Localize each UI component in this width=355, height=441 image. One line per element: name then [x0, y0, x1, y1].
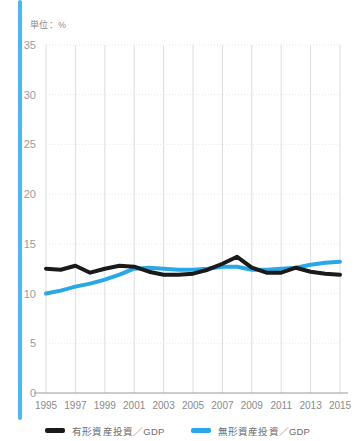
grid-lines: [46, 45, 340, 393]
x-tick-label: 1995: [35, 400, 58, 411]
x-tick-label: 1997: [64, 400, 87, 411]
y-tick-label: 25: [24, 138, 36, 150]
x-tick-label: 2003: [152, 400, 175, 411]
y-tick-label: 20: [24, 188, 36, 200]
chart-legend: 有形資産投資／GDP 無形資産投資／GDP: [0, 420, 355, 441]
y-axis-tick-labels: 05101520253035: [24, 39, 36, 399]
y-tick-label: 15: [24, 238, 36, 250]
chart-plot-area: 05101520253035 1995199719992001200320052…: [0, 0, 355, 441]
x-tick-label: 1999: [94, 400, 117, 411]
x-tick-label: 2009: [241, 400, 264, 411]
line-chart-svg: 05101520253035 1995199719992001200320052…: [0, 0, 355, 441]
legend-swatch-intangible: [191, 428, 211, 433]
legend-label-tangible: 有形資産投資／GDP: [72, 424, 165, 438]
y-tick-label: 35: [24, 39, 36, 51]
x-tick-label: 2007: [211, 400, 234, 411]
legend-item-tangible: 有形資産投資／GDP: [45, 424, 165, 438]
x-axis-tick-labels: 1995199719992001200320052007200920112013…: [35, 400, 352, 411]
x-tick-label: 2013: [299, 400, 322, 411]
x-tick-label: 2005: [182, 400, 205, 411]
y-tick-label: 5: [30, 337, 36, 349]
y-tick-label: 30: [24, 89, 36, 101]
legend-swatch-tangible: [45, 428, 65, 433]
legend-label-intangible: 無形資産投資／GDP: [218, 424, 311, 438]
x-tick-label: 2001: [123, 400, 146, 411]
legend-item-intangible: 無形資産投資／GDP: [191, 424, 311, 438]
y-tick-label: 10: [24, 288, 36, 300]
x-tick-label: 2015: [329, 400, 352, 411]
x-tick-label: 2011: [270, 400, 292, 411]
